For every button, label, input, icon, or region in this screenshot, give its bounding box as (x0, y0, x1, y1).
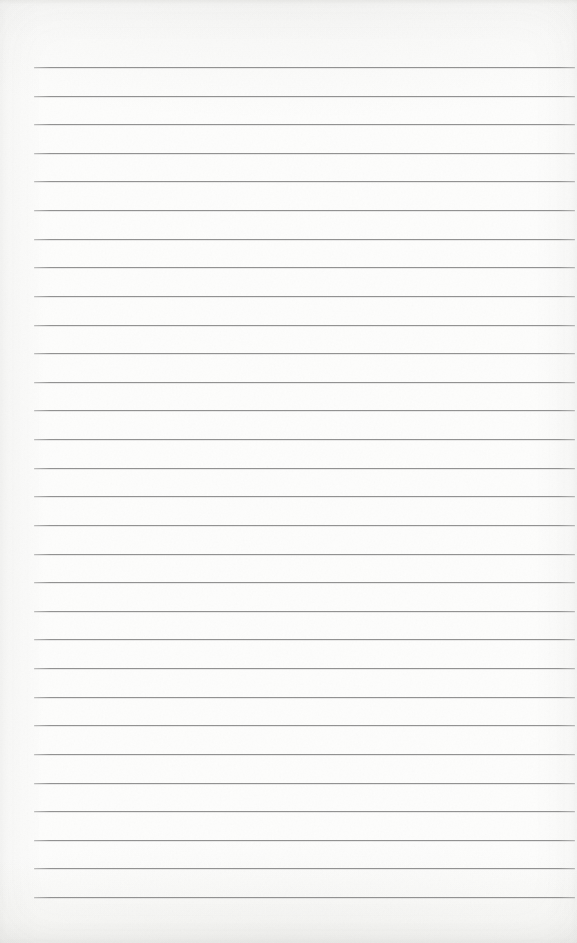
ruled-line (34, 668, 575, 669)
ruled-line (34, 897, 575, 898)
ruled-line (34, 811, 575, 812)
ruled-line (34, 296, 575, 297)
ruled-line (34, 525, 575, 526)
ruled-line (34, 611, 575, 612)
ruled-line (34, 210, 575, 211)
ruled-line (34, 639, 575, 640)
ruled-line (34, 697, 575, 698)
ruled-line (34, 267, 575, 268)
ruled-line (34, 96, 575, 97)
ruled-line (34, 410, 575, 411)
notebook-page (0, 0, 577, 943)
ruled-line (34, 124, 575, 125)
ruled-line (34, 582, 575, 583)
ruled-line (34, 754, 575, 755)
ruled-line (34, 239, 575, 240)
ruled-line (34, 181, 575, 182)
ruled-line (34, 554, 575, 555)
ruled-line (34, 868, 575, 869)
ruled-line (34, 439, 575, 440)
ruled-line (34, 382, 575, 383)
ruled-line (34, 325, 575, 326)
ruled-line (34, 153, 575, 154)
ruled-line (34, 783, 575, 784)
ruled-line (34, 840, 575, 841)
ruled-line (34, 67, 575, 68)
ruled-line (34, 353, 575, 354)
ruled-line (34, 468, 575, 469)
ruled-line (34, 496, 575, 497)
ruled-line (34, 725, 575, 726)
ruled-lines-container (0, 0, 577, 943)
